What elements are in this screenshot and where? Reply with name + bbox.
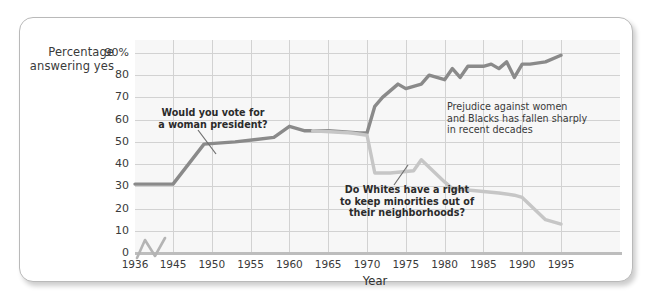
y-tick-label: 80 <box>95 68 129 81</box>
chart-figure: Percentage answering yes 010203040506070… <box>0 0 653 302</box>
y-tick-label: 30 <box>95 179 129 192</box>
annotation-summary: Prejudice against women and Blacks has f… <box>447 101 622 136</box>
annotation-whites-neighborhoods: Do Whites have a right to keep minoritie… <box>333 184 481 219</box>
leader-line-woman-president <box>196 128 226 158</box>
y-tick-label: 50 <box>95 135 129 148</box>
x-tick-label: 1995 <box>538 258 584 270</box>
annotation-woman-president: Would you vote for a woman president? <box>148 107 278 130</box>
x-axis-line <box>135 252 622 255</box>
x-axis-title: Year <box>330 274 420 288</box>
y-tick-label: 10 <box>95 224 129 237</box>
y-tick-label: 90% <box>85 46 129 59</box>
y-tick-label: 40 <box>95 157 129 170</box>
y-tick-label: 60 <box>95 113 129 126</box>
y-tick-label: 70 <box>95 90 129 103</box>
leader-line-whites-neighborhoods <box>392 163 418 189</box>
y-tick-label: 20 <box>95 202 129 215</box>
axis-break-icon <box>133 234 181 260</box>
